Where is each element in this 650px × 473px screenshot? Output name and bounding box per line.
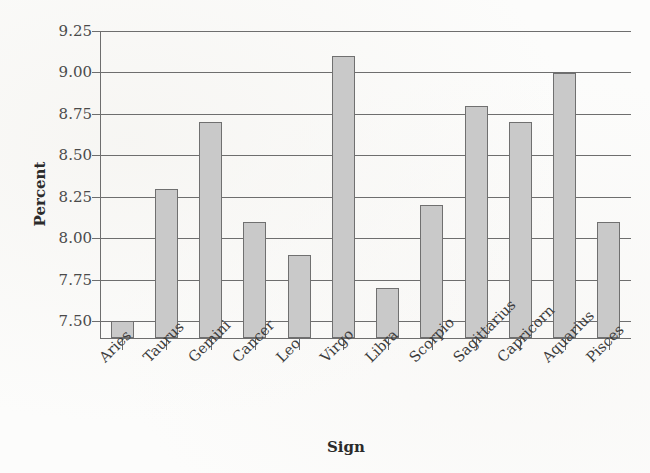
gridline: [100, 197, 631, 198]
y-axis-tick-mark: [92, 238, 100, 239]
y-axis-tick-label: 9.00: [40, 63, 92, 81]
bar: [465, 106, 488, 338]
y-axis-tick-label: 8.50: [40, 146, 92, 164]
gridline: [100, 114, 631, 115]
y-axis-tick-mark: [92, 31, 100, 32]
y-axis-tick-labels: 9.259.008.758.508.258.007.757.50: [34, 0, 92, 473]
bar: [332, 56, 355, 338]
y-axis-tick-label: 7.75: [40, 271, 92, 289]
x-axis-title: Sign: [0, 438, 650, 456]
bar: [155, 189, 178, 338]
gridline: [100, 238, 631, 239]
y-axis-tick-mark: [92, 321, 100, 322]
bar: [553, 73, 576, 339]
bar: [420, 205, 443, 338]
y-axis-tick-label: 8.75: [40, 105, 92, 123]
gridline: [100, 155, 631, 156]
bar: [199, 122, 222, 338]
gridline: [100, 280, 631, 281]
plot-area: [100, 31, 631, 338]
y-axis-tick-label: 9.25: [40, 22, 92, 40]
gridline: [100, 72, 631, 73]
y-axis-tick-mark: [92, 114, 100, 115]
gridline: [100, 31, 631, 32]
y-axis-tick-mark: [92, 72, 100, 73]
y-axis-tick-mark: [92, 155, 100, 156]
bar-chart: Percent 9.259.008.758.508.258.007.757.50…: [0, 0, 650, 473]
bar: [597, 222, 620, 338]
y-axis-tick-mark: [92, 280, 100, 281]
y-axis-tick-label: 7.50: [40, 312, 92, 330]
bar: [288, 255, 311, 338]
x-axis-line: [100, 338, 631, 339]
y-axis-tick-mark: [92, 197, 100, 198]
y-axis-tick-label: 8.00: [40, 229, 92, 247]
y-axis-tick-label: 8.25: [40, 188, 92, 206]
